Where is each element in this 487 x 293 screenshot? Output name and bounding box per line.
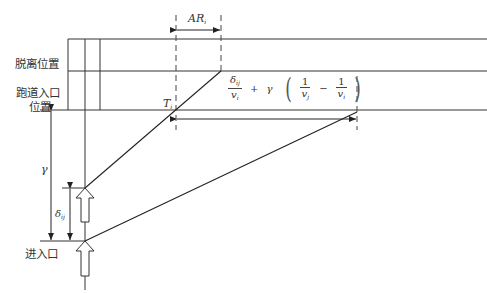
trajectory-j	[85, 112, 357, 241]
departure-position-label: 脱离位置	[15, 55, 59, 71]
dashed-guides	[176, 15, 357, 130]
entrance-label: 进入口	[25, 245, 58, 261]
separation-formula: δij vi + γ ( 1 vj − 1 vi )	[228, 74, 363, 103]
formula-fraction-2: 1 vj	[300, 76, 312, 102]
formula-fraction-3: 1 vi	[336, 76, 348, 102]
gamma-label: γ	[41, 163, 48, 176]
aircraft-j-arrow-icon	[76, 241, 94, 276]
aircraft-i-arrow-icon	[76, 188, 94, 222]
delta-label: δij	[55, 208, 65, 220]
runway-entry-label-line2: 位置	[29, 98, 51, 114]
ar-label: ARi	[188, 12, 206, 25]
formula-fraction-1: δij vi	[228, 74, 242, 103]
diagram-canvas	[0, 0, 487, 293]
trajectory-i	[85, 71, 221, 188]
t-label: Ti	[163, 97, 172, 110]
